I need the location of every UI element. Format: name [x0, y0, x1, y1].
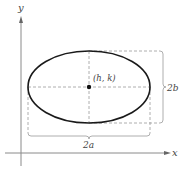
dashed-guides: [28, 51, 160, 133]
minor-axis-label: 2b: [166, 83, 179, 93]
x-axis-arrow-icon: [164, 151, 171, 155]
major-axis-label: 2a: [82, 140, 94, 150]
major-axis-brace: [28, 133, 150, 139]
x-axis-label: x: [172, 147, 178, 158]
x-axis: [5, 151, 171, 155]
y-axis: [19, 16, 23, 166]
center-point: [87, 85, 91, 89]
minor-axis-brace: [160, 51, 166, 123]
center-label: (h, k): [93, 73, 116, 83]
y-axis-arrow-icon: [19, 16, 23, 23]
y-axis-label: y: [17, 2, 24, 13]
ellipse-diagram: y x (h, k) 2b 2a: [0, 0, 179, 178]
